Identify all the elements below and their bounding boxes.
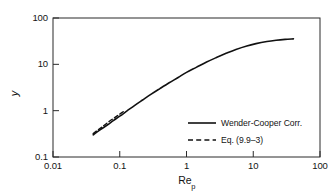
x-tick-label-1: 1 xyxy=(184,161,189,171)
x-axis-title-base: Re xyxy=(178,174,191,186)
y-tick-label-1: 1 xyxy=(18,106,48,116)
x-tick-label-10: 10 xyxy=(248,161,258,171)
y-axis-title: y xyxy=(9,91,20,97)
x-axis-title: Rep xyxy=(178,175,196,189)
x-tick-label-0.1: 0.1 xyxy=(113,161,126,171)
x-tick-label-100: 100 xyxy=(312,161,328,171)
y-tick-label-10: 10 xyxy=(18,60,48,70)
x-axis-title-subscript: p xyxy=(191,182,195,191)
y-tick-label-100: 100 xyxy=(18,13,48,23)
x-tick-label-0.01: 0.01 xyxy=(44,161,62,171)
legend-label-eq-9-9-3: Eq. (9.9–3) xyxy=(221,136,263,145)
chart-figure: 100 10 1 0.1 0.01 0.1 1 10 100 Rep y Wen… xyxy=(0,0,336,195)
legend-label-wender-cooper: Wender-Cooper Corr. xyxy=(221,119,302,128)
plot-frame xyxy=(53,18,320,157)
